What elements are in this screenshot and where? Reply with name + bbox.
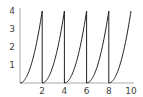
series	[20, 11, 131, 83]
x-tick-labels: 246810	[39, 86, 137, 96]
y-tick-label: 2	[9, 42, 15, 52]
x-tick-label: 2	[39, 86, 45, 96]
y-tick-label: 3	[9, 24, 15, 34]
y-tick-label: 1	[9, 60, 15, 70]
y-tick-labels: 1234	[9, 6, 15, 70]
line-series	[20, 11, 131, 83]
x-tick-label: 4	[62, 86, 68, 96]
x-tick-label: 8	[106, 86, 112, 96]
x-tick-label: 6	[84, 86, 90, 96]
x-tick-label: 10	[125, 86, 137, 96]
axes	[20, 8, 134, 83]
chart: 1234 246810	[0, 0, 143, 97]
y-tick-label: 4	[9, 6, 15, 16]
